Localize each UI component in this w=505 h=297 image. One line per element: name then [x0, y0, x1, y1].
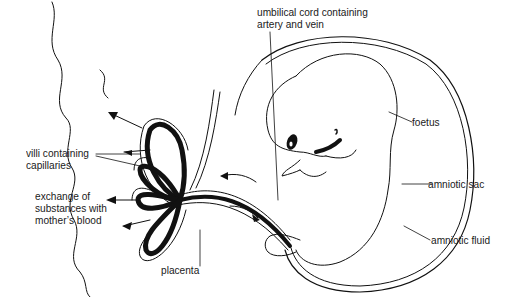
- label-villi-line2: capillaries: [26, 159, 71, 171]
- label-exchange-line3: mother’s blood: [35, 214, 102, 226]
- foetus-ear: [335, 129, 337, 134]
- amniotic-sac-outline: [266, 42, 468, 286]
- uterine-wall-line: [100, 70, 108, 98]
- label-amniotic-sac: amniotic sac: [428, 178, 484, 190]
- foetus-outline: [296, 54, 397, 265]
- foetus-arm: [282, 150, 356, 176]
- label-villi-line1: villi containing: [26, 147, 89, 159]
- label-umbilical-cord-line1: umbilical cord containing: [257, 6, 368, 18]
- label-exchange-line1: exchange of: [35, 190, 90, 202]
- placenta-diagram: umbilical cord containing artery and vei…: [0, 0, 505, 297]
- amniotic-sac-outline: [262, 37, 474, 292]
- label-foetus: foetus: [412, 116, 440, 128]
- amniotic-sac-outline: [235, 60, 262, 115]
- foetus-mouth: [316, 140, 340, 152]
- foetus-eye: [285, 133, 300, 151]
- label-amniotic-fluid: amniotic fluid: [431, 234, 490, 246]
- label-placenta: placenta: [161, 264, 199, 276]
- label-exchange-line2: substances with: [35, 202, 107, 214]
- umbilical-cord-upper: [196, 92, 220, 188]
- label-umbilical-cord-line2: artery and vein: [257, 18, 324, 30]
